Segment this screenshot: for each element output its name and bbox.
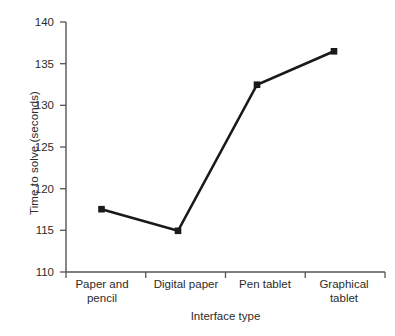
x-category-label-3-line-1: Graphical [297,278,391,292]
data-point-marker-3 [331,48,338,55]
x-category-label-0: Paper and pencil [56,278,148,305]
x-category-label-1-line-1: Digital paper [139,278,233,292]
x-axis-title: Interface type [66,310,385,322]
data-point-marker-1 [175,228,182,235]
line-chart: 140 135 130 125 120 115 110 Paper and pe… [0,0,395,336]
x-category-label-0-line-2: pencil [56,292,148,306]
x-category-label-0-line-1: Paper and [56,278,148,292]
y-tick-label-140: 140 [8,16,54,28]
y-axis-title: Time to solve (seconds) [28,43,40,263]
data-markers [98,48,337,234]
x-category-label-1: Digital paper [139,278,233,292]
x-category-label-3-line-2: tablet [297,292,391,306]
y-tick-label-110: 110 [8,266,54,278]
data-point-marker-0 [98,206,105,213]
data-point-marker-2 [254,81,261,88]
x-category-label-3: Graphical tablet [297,278,391,305]
axis-lines [66,22,385,272]
y-axis-ticks [60,22,66,272]
data-line-series-0 [102,51,335,231]
